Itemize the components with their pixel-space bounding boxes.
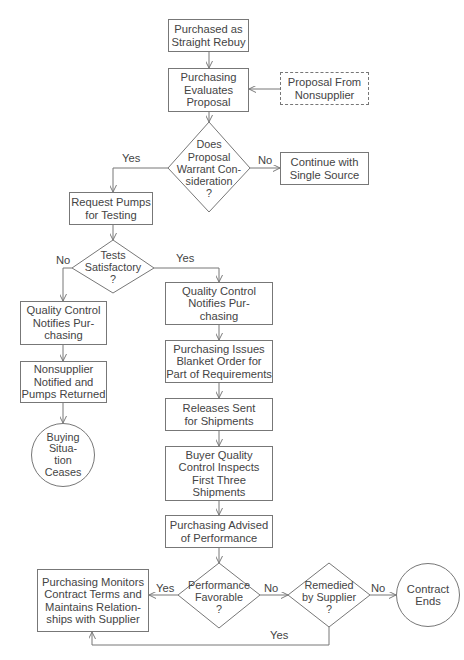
decision-remedied-by-supplier: Remedied by Supplier ?	[288, 575, 370, 619]
node-continue-single-source: Continue with Single Source	[280, 152, 369, 185]
node-purchasing-monitors: Purchasing Monitors Contract Terms and M…	[37, 569, 149, 632]
label-favorable-no: No	[264, 582, 278, 594]
node-purchased-straight-rebuy: Purchased as Straight Rebuy	[168, 19, 249, 52]
arrow-tests-yes	[154, 268, 219, 282]
arrow-tests-no	[63, 268, 72, 301]
label-tests-no: No	[56, 254, 70, 266]
label-tests-yes: Yes	[176, 252, 194, 264]
arrow-warrant-yes	[113, 168, 168, 192]
label-favorable-yes: Yes	[156, 582, 174, 594]
node-nonsupplier-notified: Nonsupplier Notified and Pumps Returned	[20, 361, 107, 403]
node-qc-notifies-left: Quality Control Notifies Pur- chasing	[20, 301, 107, 345]
node-qc-notifies-right: Quality Control Notifies Pur- chasing	[165, 282, 273, 325]
label-warrant-yes: Yes	[122, 152, 140, 164]
label-warrant-no: No	[258, 154, 272, 166]
label-remedied-yes: Yes	[270, 629, 288, 641]
node-releases-sent: Releases Sent for Shipments	[165, 398, 273, 431]
node-proposal-from-nonsupplier: Proposal From Nonsupplier	[280, 72, 369, 105]
decision-performance-favorable: Performance Favorable ?	[178, 575, 260, 619]
node-blanket-order: Purchasing Issues Blanket Order for Part…	[165, 340, 273, 383]
decision-warrant-consideration: Does Proposal Warrant Con- sideration ?	[168, 130, 250, 208]
decision-tests-satisfactory: Tests Satisfactory ?	[72, 245, 154, 289]
node-purchasing-evaluates-proposal: Purchasing Evaluates Proposal	[168, 68, 249, 112]
terminal-buying-ceases: Buying Situa- tion Ceases	[31, 423, 95, 487]
node-request-pumps: Request Pumps for Testing	[69, 192, 153, 225]
terminal-contract-ends: Contract Ends	[396, 563, 460, 627]
label-remedied-no: No	[371, 582, 385, 594]
node-buyer-qc-inspects: Buyer Quality Control Inspects First Thr…	[165, 446, 273, 501]
node-purchasing-advised: Purchasing Advised of Performance	[165, 515, 273, 548]
